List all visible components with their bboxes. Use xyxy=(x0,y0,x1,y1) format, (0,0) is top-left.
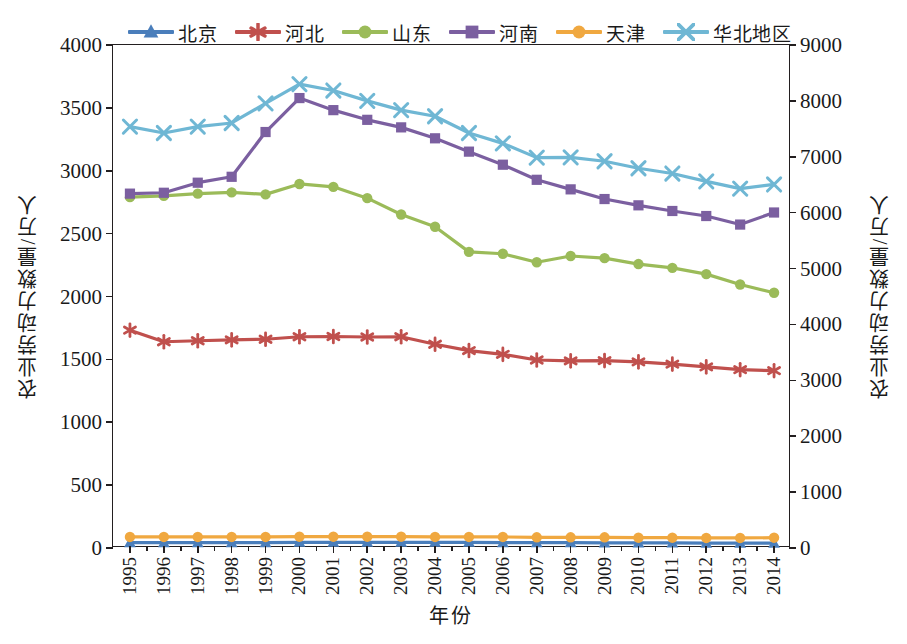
x-axis-tick xyxy=(197,546,199,553)
x-axis-tick xyxy=(299,546,301,553)
legend-swatch-square-icon xyxy=(449,30,495,34)
y-axis-right-tick-label: 0 xyxy=(800,536,811,561)
data-point xyxy=(396,531,406,541)
y-axis-right-tick xyxy=(789,380,796,382)
y-axis-left-title-text: 农业劳动力数量/万人 xyxy=(13,193,42,399)
legend-label: 天津 xyxy=(606,19,645,46)
x-axis-tick xyxy=(773,546,775,553)
y-axis-right-tick xyxy=(789,268,796,270)
x-axis-tick-label: 2004 xyxy=(424,557,446,595)
x-axis-minor-tick xyxy=(756,546,758,551)
y-axis-left-tick xyxy=(106,547,113,549)
y-axis-right-tick xyxy=(789,212,796,214)
legend-label: 山东 xyxy=(392,19,431,46)
x-axis-tick xyxy=(231,546,233,553)
data-point xyxy=(362,193,372,203)
x-axis-minor-tick xyxy=(722,546,724,551)
data-point xyxy=(532,175,542,185)
data-point xyxy=(260,127,270,137)
data-point xyxy=(125,532,135,542)
data-point xyxy=(396,209,406,219)
data-point xyxy=(498,249,508,259)
y-axis-right-tick xyxy=(789,435,796,437)
data-point xyxy=(769,532,779,542)
data-point xyxy=(701,211,711,221)
x-axis-tick xyxy=(129,546,131,553)
data-point xyxy=(701,533,711,543)
data-point xyxy=(633,532,643,542)
legend-swatch-x-icon xyxy=(663,30,709,34)
y-axis-right-tick-label: 5000 xyxy=(800,256,842,281)
y-axis-left-tick xyxy=(106,107,113,109)
series-line xyxy=(130,542,774,543)
y-axis-right-tick-label: 3000 xyxy=(800,368,842,393)
data-point xyxy=(735,279,745,289)
data-point xyxy=(328,105,338,115)
x-axis-tick xyxy=(434,546,436,553)
data-point xyxy=(599,194,609,204)
y-axis-right-tick xyxy=(789,44,796,46)
y-axis-right-tick-label: 1000 xyxy=(800,480,842,505)
x-axis-tick-label: 2003 xyxy=(390,557,412,595)
y-axis-right-tick xyxy=(789,156,796,158)
x-axis-tick-label: 2006 xyxy=(492,557,514,595)
y-axis-left-tick-label: 2500 xyxy=(60,221,102,246)
x-axis-minor-tick xyxy=(451,546,453,551)
legend-item-河南[interactable]: 河南 xyxy=(449,19,538,46)
x-axis-tick xyxy=(705,546,707,553)
data-point xyxy=(464,532,474,542)
y-axis-right-tick-label: 7000 xyxy=(800,144,842,169)
x-axis-tick xyxy=(400,546,402,553)
legend-item-河北[interactable]: 河北 xyxy=(235,19,324,46)
data-point xyxy=(430,532,440,542)
x-axis-tick xyxy=(672,546,674,553)
x-axis-tick-label: 2005 xyxy=(458,557,480,595)
y-axis-left-tick xyxy=(106,421,113,423)
x-axis-tick xyxy=(570,546,572,553)
legend-item-北京[interactable]: 北京 xyxy=(128,19,217,46)
y-axis-right-tick xyxy=(789,100,796,102)
data-point xyxy=(735,533,745,543)
x-axis-tick xyxy=(163,546,165,553)
series-山东 xyxy=(125,179,780,298)
x-axis-tick xyxy=(604,546,606,553)
data-point xyxy=(226,532,236,542)
x-axis-tick-label: 2002 xyxy=(356,557,378,595)
x-axis-minor-tick xyxy=(519,546,521,551)
plot-area: 0500100015002000250030003500400001000200… xyxy=(112,44,790,547)
x-axis-tick-label: 1998 xyxy=(221,557,243,595)
x-axis-tick xyxy=(536,546,538,553)
data-point xyxy=(159,188,169,198)
legend-item-山东[interactable]: 山东 xyxy=(342,19,431,46)
legend-swatch-triangle-icon xyxy=(128,30,174,34)
y-axis-left-tick-label: 0 xyxy=(92,536,103,561)
legend-item-华北地区[interactable]: 华北地区 xyxy=(663,19,791,46)
x-axis-minor-tick xyxy=(282,546,284,551)
x-axis-tick-label: 2008 xyxy=(560,557,582,595)
y-axis-left-tick-label: 1500 xyxy=(60,347,102,372)
data-point xyxy=(769,207,779,217)
x-axis-minor-tick xyxy=(655,546,657,551)
data-point xyxy=(532,532,542,542)
data-point xyxy=(430,222,440,232)
data-point xyxy=(633,200,643,210)
legend-item-天津[interactable]: 天津 xyxy=(556,19,645,46)
x-axis-minor-tick xyxy=(417,546,419,551)
series-河南 xyxy=(125,93,779,230)
y-axis-right-tick xyxy=(789,547,796,549)
data-point xyxy=(193,178,203,188)
data-point xyxy=(430,133,440,143)
y-axis-left-tick xyxy=(106,359,113,361)
data-point xyxy=(227,172,237,182)
y-axis-left-tick-label: 3500 xyxy=(60,95,102,120)
y-axis-right-tick-label: 4000 xyxy=(800,312,842,337)
legend-label: 华北地区 xyxy=(713,19,791,46)
x-axis-tick xyxy=(468,546,470,553)
y-axis-left-tick-label: 2000 xyxy=(60,284,102,309)
x-axis-tick-label: 2012 xyxy=(695,557,717,595)
data-point xyxy=(599,253,609,263)
y-axis-right-tick xyxy=(789,324,796,326)
data-point xyxy=(260,189,270,199)
x-axis-tick xyxy=(366,546,368,553)
data-point xyxy=(735,219,745,229)
